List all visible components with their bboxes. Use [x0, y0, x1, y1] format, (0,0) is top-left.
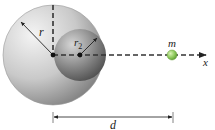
label-r: r — [39, 25, 44, 39]
label-d: d — [110, 118, 117, 130]
small-center-dot — [78, 53, 83, 58]
mass-ball — [167, 50, 177, 60]
diagram-canvas: r r2 m x d — [0, 0, 215, 130]
label-m: m — [168, 37, 176, 49]
label-x: x — [202, 56, 208, 68]
big-center-dot — [51, 53, 56, 58]
